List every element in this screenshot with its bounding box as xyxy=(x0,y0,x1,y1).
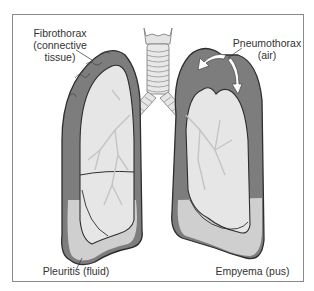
empyema-line1: Empyema (pus) xyxy=(210,265,295,277)
label-fibrothorax: Fibrothorax (connective tissue) xyxy=(30,27,90,63)
fibrothorax-line3: tissue) xyxy=(30,51,90,63)
label-pleuritis: Pleuritis (fluid) xyxy=(36,265,116,277)
pleuritis-line1: Pleuritis (fluid) xyxy=(36,265,116,277)
pneumothorax-line1: Pneumothorax xyxy=(232,37,302,49)
label-empyema: Empyema (pus) xyxy=(210,265,295,277)
pneumothorax-line2: (air) xyxy=(232,49,302,61)
fibrothorax-line2: (connective xyxy=(30,39,90,51)
left-lung xyxy=(62,50,143,270)
right-lung xyxy=(172,48,264,259)
label-pneumothorax: Pneumothorax (air) xyxy=(232,37,302,61)
fibrothorax-line1: Fibrothorax xyxy=(30,27,90,39)
